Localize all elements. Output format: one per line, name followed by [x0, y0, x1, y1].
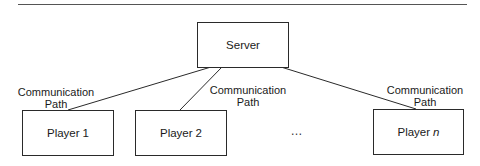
link-label-player-1: Communication Path — [11, 86, 101, 110]
link-label-player-n: Communication Path — [380, 84, 470, 108]
player-label: Player — [47, 127, 80, 139]
player-number: 1 — [83, 127, 89, 139]
link-label-line1: Communication — [203, 84, 293, 96]
player-label: Player — [160, 127, 193, 139]
link-label-line1: Communication — [11, 86, 101, 98]
player-n-node: Player n — [373, 109, 464, 155]
link-label-line2: Path — [380, 96, 470, 108]
link-label-line2: Path — [203, 96, 293, 108]
server-node: Server — [197, 22, 289, 68]
player-number: n — [433, 126, 439, 138]
link-label-line1: Communication — [380, 84, 470, 96]
ellipsis-more-players: … — [284, 124, 310, 138]
link-label-line2: Path — [11, 98, 101, 110]
player-label: Player — [397, 126, 430, 138]
server-label: Server — [226, 39, 260, 51]
player-2-node: Player 2 — [135, 110, 227, 156]
link-label-player-2: Communication Path — [203, 84, 293, 108]
player-number: 2 — [196, 127, 202, 139]
player-1-node: Player 1 — [22, 110, 114, 156]
